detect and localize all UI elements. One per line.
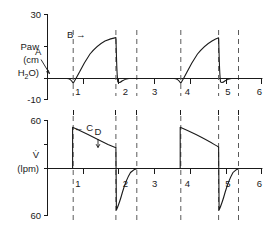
paw-xtick-label-4: 4 (185, 86, 190, 97)
paw-axis-title-line1: Paw (21, 41, 40, 52)
paw-x-ticks (83, 79, 262, 85)
paw-trace-breath-1 (48, 38, 137, 84)
paw-axis-title-line3: H2O) (18, 67, 39, 80)
flow-ytick-label-top: 60 (30, 115, 41, 126)
annotation-c-label: ← C (74, 122, 93, 133)
paw-xtick-label-6: 6 (257, 86, 262, 97)
figure-svg: A B → 30 -10 Paw (cm H2O) 1 2 3 4 5 6 (0, 0, 266, 231)
paw-xtick-label-2: 2 (123, 86, 128, 97)
paw-xtick-label-3: 3 (152, 86, 157, 97)
flow-axis-title-line2: (lpm) (17, 163, 39, 174)
flow-xtick-label-5: 5 (225, 178, 230, 189)
paw-trace-breath-2 (174, 38, 262, 83)
paw-panel: A B → 30 -10 Paw (cm H2O) 1 2 3 4 5 6 (18, 9, 262, 105)
flow-xtick-label-4: 4 (185, 178, 190, 189)
flow-xtick-label-6: 6 (257, 178, 262, 189)
flow-axis-title-line1: V̇ (33, 149, 40, 160)
flow-xtick-label-2: 2 (123, 178, 128, 189)
annotation-d-label: D (95, 126, 102, 137)
flow-ytick-label-bottom: 60 (30, 210, 41, 221)
paw-xtick-label-5: 5 (225, 86, 230, 97)
flow-panel: ← C D 60 60 V̇ (lpm) 1 2 3 4 5 6 (17, 110, 262, 224)
paw-ytick-label-top: 30 (30, 9, 41, 20)
flow-xtick-label-3: 3 (152, 178, 157, 189)
waveform-figure-root: A B → 30 -10 Paw (cm H2O) 1 2 3 4 5 6 (0, 0, 266, 231)
paw-xtick-label-1: 1 (75, 86, 80, 97)
paw-axis-title-line2: (cm (23, 54, 39, 65)
paw-ytick-label-bottom: -10 (27, 94, 41, 105)
annotation-b-label: B → (67, 29, 85, 40)
flow-top-ticks (73, 110, 238, 115)
flow-xtick-label-1: 1 (75, 178, 80, 189)
